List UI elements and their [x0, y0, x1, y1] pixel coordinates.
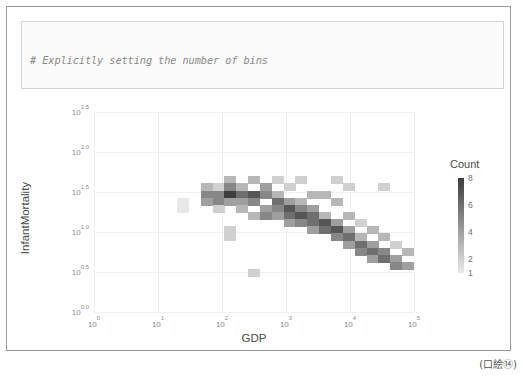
- heatmap-cell: [378, 183, 390, 191]
- heatmap-cell: [331, 233, 343, 241]
- heatmap-cell: [319, 191, 331, 199]
- plot-panel: [94, 112, 414, 312]
- heatmap-cell: [390, 241, 402, 249]
- x-tick-label: 102: [216, 318, 228, 329]
- heatmap-cell: [248, 176, 260, 184]
- gridline-vertical: [158, 112, 159, 312]
- heatmap-cell: [343, 241, 355, 249]
- heatmap-cell: [378, 255, 390, 263]
- x-tick-label: 100: [88, 318, 100, 329]
- screenshot-page: # Explicitly setting the number of bins …: [0, 0, 523, 377]
- heatmap-cell: [248, 269, 260, 277]
- plot-canvas: InfantMortality GDP 100.0100.5101.0101.5…: [17, 95, 514, 353]
- figure-frame: # Explicitly setting the number of bins …: [6, 6, 511, 351]
- code-block: # Explicitly setting the number of bins …: [21, 21, 504, 89]
- heatmap-cell: [343, 183, 355, 191]
- heatmap-cell: [260, 212, 272, 220]
- heatmap-cell: [331, 198, 343, 206]
- heatmap-cell: [177, 205, 189, 213]
- y-tick-label: 100.0: [17, 307, 89, 318]
- heatmap-cell: [319, 226, 331, 234]
- heatmap-cell: [307, 226, 319, 234]
- y-tick-label: 100.5: [17, 267, 89, 278]
- colorbar-tick-label: 6: [468, 200, 473, 210]
- gridline-vertical: [94, 112, 95, 312]
- figure-caption: (口絵⑭): [0, 356, 517, 371]
- y-tick-label: 102.5: [17, 107, 89, 118]
- heatmap-cell: [236, 205, 248, 213]
- code-comment-line: # Explicitly setting the number of bins: [30, 54, 503, 67]
- x-tick-label: 105: [408, 318, 420, 329]
- heatmap-cell: [295, 176, 307, 184]
- heatmap-cell: [248, 198, 260, 206]
- heatmap-cell: [367, 255, 379, 263]
- heatmap-cell: [224, 198, 236, 206]
- colorbar-segment: [458, 271, 464, 273]
- heatmap-cell: [213, 205, 225, 213]
- legend: Count 86421: [432, 158, 512, 293]
- gridline-horizontal: [94, 152, 414, 153]
- colorbar-tick-label: 2: [468, 254, 473, 264]
- heatmap-cell: [284, 183, 296, 191]
- heatmap-cell: [248, 212, 260, 220]
- heatmap-cell: [378, 233, 390, 241]
- heatmap-cell: [224, 233, 236, 241]
- x-axis-label: GDP: [94, 332, 414, 344]
- y-tick-label: 101.5: [17, 187, 89, 198]
- heatmap-cell: [272, 176, 284, 184]
- colorbar-tick-label: 8: [468, 173, 473, 183]
- heatmap-cell: [201, 198, 213, 206]
- heatmap-cell: [284, 219, 296, 227]
- heatmap-cell: [390, 262, 402, 270]
- heatmap-cell: [295, 219, 307, 227]
- gridline-vertical: [414, 112, 415, 312]
- y-tick-label: 101.0: [17, 227, 89, 238]
- x-tick-label: 104: [344, 318, 356, 329]
- heatmap-cell: [402, 262, 414, 270]
- legend-title: Count: [450, 158, 479, 170]
- gridline-horizontal: [94, 312, 414, 313]
- heatmap-cell: [367, 226, 379, 234]
- heatmap-cell: [260, 191, 272, 199]
- legend-colorbar: [458, 178, 464, 273]
- y-tick-label: 102.0: [17, 147, 89, 158]
- heatmap-cell: [272, 212, 284, 220]
- x-tick-label: 101: [152, 318, 164, 329]
- colorbar-tick-label: 4: [468, 227, 473, 237]
- colorbar-tick-label: 1: [468, 268, 473, 278]
- x-tick-label: 103: [280, 318, 292, 329]
- heatmap-cell: [331, 176, 343, 184]
- heatmap-cell: [307, 191, 319, 199]
- heatmap-cell: [355, 248, 367, 256]
- gridline-horizontal: [94, 112, 414, 113]
- heatmap-cell: [402, 248, 414, 256]
- heatmap-cell: [355, 219, 367, 227]
- heatmap-cell: [343, 212, 355, 220]
